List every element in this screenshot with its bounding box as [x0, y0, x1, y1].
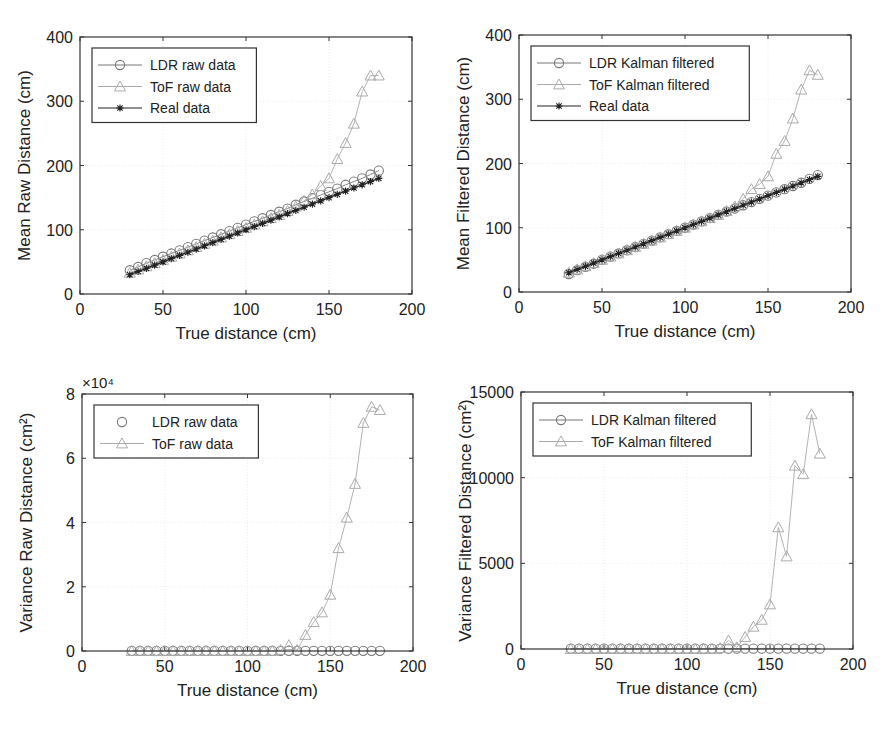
star-marker	[706, 215, 713, 222]
star-marker	[226, 233, 233, 240]
y-tick-label: 0	[66, 643, 75, 660]
x-tick-label: 100	[672, 299, 699, 316]
y-axis-label: Mean Raw Distance (cm)	[15, 70, 34, 261]
star-marker	[342, 188, 349, 195]
star-marker	[731, 205, 738, 212]
x-tick-label: 100	[233, 301, 260, 318]
star-marker	[764, 192, 771, 199]
star-marker	[673, 227, 680, 234]
x-axis-label: True distance (cm)	[177, 681, 318, 700]
y-tick-label: 300	[46, 93, 73, 110]
y-tick-label: 10000	[470, 470, 515, 487]
x-tick-label: 50	[595, 656, 613, 673]
y-tick-label: 4	[66, 515, 75, 532]
star-marker	[723, 208, 730, 215]
star-marker	[359, 181, 366, 188]
legend-label: ToF raw data	[150, 79, 231, 95]
x-tick-label: 200	[399, 301, 426, 318]
star-marker	[234, 229, 241, 236]
star-marker	[218, 236, 225, 243]
x-tick-label: 100	[234, 658, 261, 675]
y-tick-label: 0	[503, 284, 512, 301]
y-tick-label: 2	[66, 579, 75, 596]
x-tick-label: 50	[156, 658, 174, 675]
legend-label: Real data	[150, 100, 210, 116]
star-marker	[565, 269, 572, 276]
legend: LDR Kalman filteredToF Kalman filtered	[533, 403, 751, 456]
x-tick-label: 150	[755, 299, 782, 316]
x-tick-label: 200	[400, 658, 427, 675]
star-marker	[143, 265, 150, 272]
star-marker	[555, 102, 562, 109]
star-marker	[251, 223, 258, 230]
legend: LDR Kalman filteredToF Kalman filteredRe…	[531, 46, 749, 121]
y-tick-label: 400	[46, 29, 73, 46]
star-marker	[607, 253, 614, 260]
legend-label: LDR raw data	[150, 57, 236, 73]
x-tick-label: 100	[674, 656, 701, 673]
x-tick-label: 150	[317, 658, 344, 675]
star-marker	[590, 259, 597, 266]
y-tick-label: 8	[66, 386, 75, 403]
legend-label: ToF raw data	[152, 436, 233, 452]
legend-label: LDR Kalman filtered	[589, 55, 714, 71]
star-marker	[116, 104, 123, 111]
chart-mean-filtered-distance: 0501001502000100200300400LDR Kalman filt…	[454, 27, 864, 341]
star-marker	[334, 191, 341, 198]
star-marker	[640, 240, 647, 247]
legend-label: LDR raw data	[152, 414, 238, 430]
star-marker	[267, 217, 274, 224]
y-tick-label: 100	[485, 220, 512, 237]
star-marker	[317, 197, 324, 204]
x-tick-label: 50	[154, 301, 172, 318]
star-marker	[184, 249, 191, 256]
y-tick-label: 0	[64, 286, 73, 303]
star-marker	[598, 256, 605, 263]
chart-variance-raw-distance: 05010015020002468×10⁴LDR raw dataToF raw…	[17, 374, 426, 700]
y-tick-label: 6	[66, 450, 75, 467]
star-marker	[242, 226, 249, 233]
star-marker	[690, 221, 697, 228]
star-marker	[798, 179, 805, 186]
star-marker	[715, 211, 722, 218]
star-marker	[740, 202, 747, 209]
star-marker	[168, 255, 175, 262]
y-tick-label: 200	[46, 158, 73, 175]
star-marker	[748, 198, 755, 205]
x-tick-label: 150	[316, 301, 343, 318]
legend: LDR raw dataToF raw data	[94, 405, 258, 458]
star-marker	[789, 182, 796, 189]
star-marker	[259, 220, 266, 227]
y-axis-label: Mean Filtered Distance (cm)	[454, 57, 473, 271]
x-tick-label: 0	[78, 658, 87, 675]
star-marker	[276, 213, 283, 220]
x-axis-label: True distance (cm)	[614, 322, 755, 341]
legend-label: Real data	[589, 98, 649, 114]
star-marker	[159, 258, 166, 265]
star-marker	[325, 194, 332, 201]
exponent-label: ×10⁴	[82, 374, 114, 391]
star-marker	[193, 245, 200, 252]
star-marker	[574, 266, 581, 273]
y-tick-label: 200	[485, 156, 512, 173]
x-tick-label: 0	[76, 301, 85, 318]
star-marker	[623, 247, 630, 254]
legend-label: LDR Kalman filtered	[591, 412, 716, 428]
chart-mean-raw-distance: 0501001502000100200300400LDR raw dataToF…	[15, 29, 425, 343]
star-marker	[301, 204, 308, 211]
star-marker	[756, 195, 763, 202]
x-axis-label: True distance (cm)	[616, 679, 757, 698]
x-tick-label: 50	[593, 299, 611, 316]
star-marker	[284, 210, 291, 217]
star-marker	[814, 173, 821, 180]
star-marker	[657, 234, 664, 241]
legend-label: ToF Kalman filtered	[589, 77, 710, 93]
star-marker	[309, 200, 316, 207]
star-marker	[151, 261, 158, 268]
star-marker	[615, 250, 622, 257]
legend: LDR raw dataToF raw dataReal data	[92, 48, 256, 123]
y-tick-label: 100	[46, 222, 73, 239]
star-marker	[126, 271, 133, 278]
y-axis-label: Variance Raw Distance (cm²)	[17, 413, 36, 633]
x-axis-label: True distance (cm)	[175, 324, 316, 343]
